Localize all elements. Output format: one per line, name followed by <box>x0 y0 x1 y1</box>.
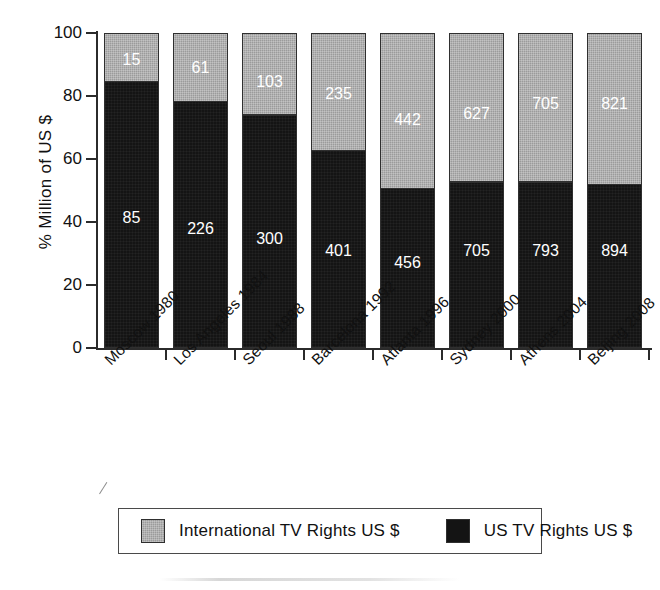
gray-swatch-icon <box>141 519 165 543</box>
x-tick-mark <box>441 349 443 360</box>
value-label-international: 442 <box>394 112 421 128</box>
value-label-us: 300 <box>256 231 283 247</box>
y-tick-label: 0 <box>26 338 82 358</box>
segment-international[interactable]: 627 <box>450 34 504 181</box>
legend-item-us[interactable]: US TV Rights US $ <box>446 519 633 543</box>
black-swatch-icon <box>446 519 470 543</box>
bar-athens-2004[interactable]: 705793 <box>518 33 574 348</box>
y-tick-label: 60 <box>26 149 82 169</box>
scan-artifact-mark <box>99 482 126 506</box>
chart-legend: International TV Rights US $ US TV Right… <box>118 508 542 554</box>
bar-sydney-2000[interactable]: 627705 <box>449 33 505 348</box>
segment-international[interactable]: 235 <box>312 34 366 150</box>
x-tick-mark <box>303 349 305 360</box>
y-tick-mark <box>86 284 97 286</box>
legend-item-international[interactable]: International TV Rights US $ <box>141 519 400 543</box>
segment-international[interactable]: 103 <box>243 34 297 114</box>
value-label-international: 627 <box>463 106 490 122</box>
y-tick-label: 80 <box>26 86 82 106</box>
value-label-international: 61 <box>192 60 210 76</box>
y-tick-mark <box>86 221 97 223</box>
legend-label-us: US TV Rights US $ <box>484 521 633 541</box>
segment-international[interactable]: 705 <box>519 34 573 181</box>
y-tick-label: 100 <box>26 23 82 43</box>
value-label-international: 821 <box>601 96 628 112</box>
value-label-us: 456 <box>394 255 421 271</box>
x-tick-mark <box>234 349 236 360</box>
segment-international[interactable]: 61 <box>174 34 228 101</box>
value-label-us: 705 <box>463 243 490 259</box>
scan-artifact-smudge <box>160 578 460 581</box>
segment-international[interactable]: 15 <box>105 34 159 81</box>
y-tick-mark <box>86 95 97 97</box>
stacked-bar-chart: % Million of US $ 020406080100 158561226… <box>0 0 660 590</box>
value-label-international: 103 <box>256 74 283 90</box>
value-label-us: 401 <box>325 243 352 259</box>
value-label-international: 705 <box>532 96 559 112</box>
legend-label-international: International TV Rights US $ <box>179 521 400 541</box>
x-tick-mark <box>165 349 167 360</box>
y-tick-mark <box>86 347 97 349</box>
x-tick-mark <box>510 349 512 360</box>
value-label-us: 85 <box>123 210 141 226</box>
segment-international[interactable]: 442 <box>381 34 435 188</box>
y-tick-mark <box>86 158 97 160</box>
value-label-international: 15 <box>123 52 141 68</box>
x-tick-mark <box>372 349 374 360</box>
bar-beijing-2008[interactable]: 821894 <box>587 33 643 348</box>
x-tick-mark <box>579 349 581 360</box>
bar-barcelona-1992[interactable]: 235401 <box>311 33 367 348</box>
value-label-international: 235 <box>325 86 352 102</box>
value-label-us: 226 <box>187 221 214 237</box>
y-tick-label: 20 <box>26 275 82 295</box>
x-tick-mark <box>648 349 650 360</box>
value-label-us: 894 <box>601 243 628 259</box>
bar-moscow-1980[interactable]: 1585 <box>104 33 160 348</box>
value-label-us: 793 <box>532 243 559 259</box>
y-tick-label: 40 <box>26 212 82 232</box>
segment-international[interactable]: 821 <box>588 34 642 184</box>
y-tick-mark <box>86 32 97 34</box>
